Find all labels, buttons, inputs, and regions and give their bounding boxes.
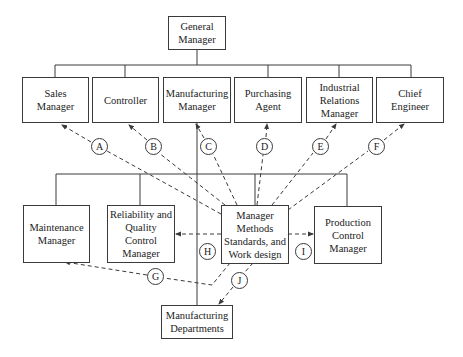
label-circle-d: D xyxy=(256,138,273,155)
node-production-control-manager: Production Control Manager xyxy=(314,206,382,264)
label-circle-e: E xyxy=(312,138,329,155)
node-sales-manager: Sales Manager xyxy=(22,77,89,123)
label-circle-b: B xyxy=(145,138,162,155)
label-circle-j: J xyxy=(231,272,248,289)
label-circle-g: G xyxy=(147,268,164,285)
node-reliability-quality-control-manager: Reliability and Quality Control Manager xyxy=(107,205,175,263)
label-circle-f: F xyxy=(368,138,385,155)
node-manufacturing-departments: Manufacturing Departments xyxy=(161,305,233,339)
node-maintenance-manager: Maintenance Manager xyxy=(23,205,90,263)
node-general-manager: General Manager xyxy=(168,16,226,50)
label-circle-h: H xyxy=(199,243,216,260)
label-circle-a: A xyxy=(91,138,108,155)
node-controller: Controller xyxy=(92,77,159,123)
label-circle-c: C xyxy=(200,138,217,155)
org-chart-canvas: General Manager Sales Manager Controller… xyxy=(0,0,463,357)
node-chief-engineer: Chief Engineer xyxy=(376,77,444,123)
node-purchasing-agent: Purchasing Agent xyxy=(234,77,302,123)
node-manufacturing-manager: Manufacturing Manager xyxy=(163,77,231,123)
node-methods-standards-manager: Manager Methods Standards, and Work desi… xyxy=(221,205,289,264)
connector-lines xyxy=(0,0,463,357)
node-industrial-relations-manager: Industrial Relations Manager xyxy=(306,77,373,123)
label-circle-i: I xyxy=(295,243,312,260)
